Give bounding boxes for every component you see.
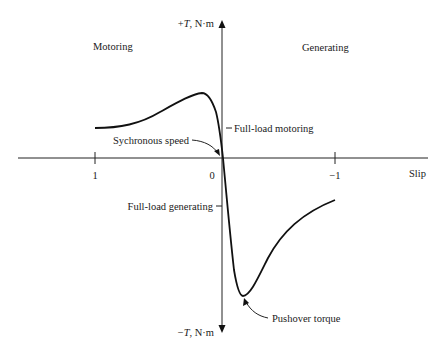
tick-label-1: 1 — [92, 170, 97, 181]
slip-axis-label: Slip — [409, 168, 426, 179]
synchronous-speed-label: Sychronous speed — [113, 135, 190, 146]
tick-label-minus-1: −1 — [329, 170, 340, 181]
full-load-generating-label: Full-load generating — [128, 201, 214, 212]
pushover-torque-label: Pushover torque — [272, 313, 341, 324]
motoring-region-label: Motoring — [93, 41, 133, 52]
down-arrow-icon — [219, 325, 226, 333]
torque-negative-label: −T, N·m — [178, 327, 214, 338]
full-load-motoring-label: Full-load motoring — [234, 123, 314, 134]
pushover-leader — [246, 302, 268, 318]
torque-slip-diagram: +T, N·m −T, N·m Slip Motoring Generating… — [0, 0, 444, 347]
generating-curve — [223, 158, 335, 296]
torque-positive-label: +T, N·m — [178, 18, 214, 29]
generating-region-label: Generating — [302, 42, 349, 53]
tick-label-0: 0 — [209, 170, 214, 181]
motoring-curve — [95, 93, 223, 158]
up-arrow-icon — [219, 20, 226, 28]
